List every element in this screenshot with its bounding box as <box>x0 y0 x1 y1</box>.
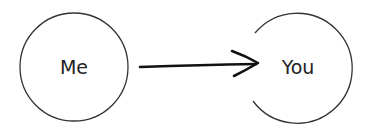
node-you-label: You <box>281 56 315 78</box>
node-you: You <box>253 13 352 123</box>
arrow-shaft <box>140 64 256 67</box>
node-me: Me <box>20 13 128 121</box>
edge-me-to-you <box>140 51 258 76</box>
node-me-label: Me <box>60 56 88 78</box>
diagram-canvas: Me You <box>0 0 369 133</box>
